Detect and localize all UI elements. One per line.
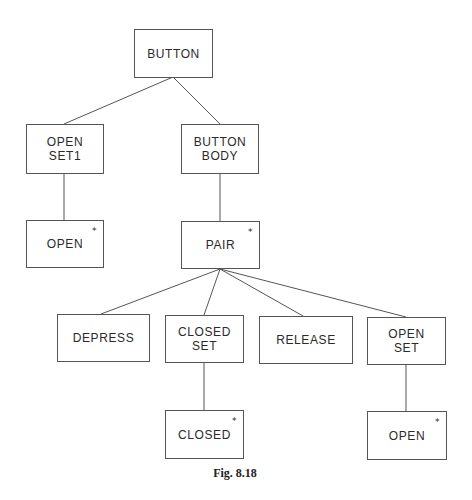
node-open-leaf-1: OPEN * — [26, 220, 104, 268]
edge-pair-release — [220, 269, 303, 316]
node-label: RELEASE — [276, 333, 336, 347]
node-label: BUTTON BODY — [194, 135, 247, 163]
asterisk-marker: * — [92, 227, 97, 236]
node-closed-leaf: CLOSED * — [165, 410, 244, 459]
node-label: PAIR — [206, 238, 236, 252]
asterisk-marker: * — [435, 418, 440, 427]
node-label: CLOSED — [178, 428, 231, 442]
asterisk-marker: * — [248, 228, 253, 237]
node-label: OPEN — [389, 429, 425, 443]
node-open-leaf-2: OPEN * — [367, 411, 447, 460]
node-label: DEPRESS — [73, 331, 135, 345]
node-label: OPEN SET — [388, 327, 424, 355]
node-depress: DEPRESS — [57, 314, 150, 362]
edge-pair-closed-set — [204, 269, 220, 315]
node-label: OPEN — [47, 237, 83, 251]
node-label: BUTTON — [147, 47, 200, 61]
figure-caption: Fig. 8.18 — [200, 466, 270, 481]
node-open-set: OPEN SET — [367, 317, 446, 365]
edge-pair-depress — [101, 269, 220, 314]
tree-diagram: BUTTON OPEN SET1 BUTTON BODY OPEN * PAIR… — [0, 0, 472, 500]
node-closed-set: CLOSED SET — [165, 315, 244, 363]
node-label: CLOSED SET — [178, 325, 231, 353]
node-release: RELEASE — [259, 316, 353, 364]
edge-button-open-set1 — [64, 77, 173, 124]
node-pair: PAIR * — [181, 221, 260, 269]
edge-pair-open-set — [220, 269, 406, 317]
node-button-body: BUTTON BODY — [181, 124, 259, 174]
asterisk-marker: * — [232, 417, 237, 426]
edge-button-button-body — [173, 77, 220, 124]
node-label: OPEN SET1 — [47, 135, 83, 163]
node-open-set1: OPEN SET1 — [26, 124, 104, 174]
node-button: BUTTON — [134, 29, 213, 78]
